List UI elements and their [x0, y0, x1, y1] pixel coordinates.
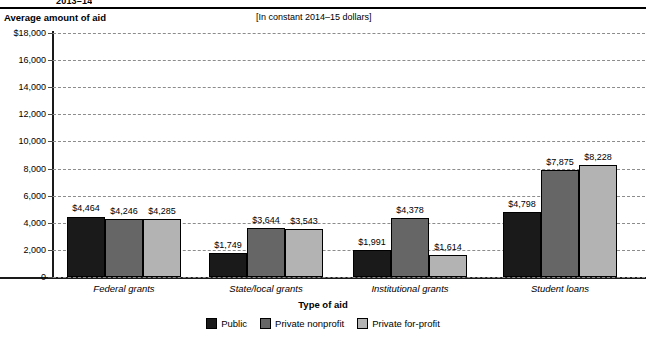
- legend-label: Public: [221, 318, 247, 329]
- tick-mark: [48, 250, 53, 251]
- gridline: [53, 87, 645, 88]
- gridline: [53, 60, 645, 61]
- legend-item[interactable]: Private for-profit: [357, 318, 440, 329]
- bar: [67, 217, 105, 278]
- y-axis-tick-label: 12,000: [18, 109, 46, 119]
- bar: [503, 212, 541, 277]
- legend-swatch-icon: [206, 318, 217, 329]
- y-axis-tick-label: 16,000: [18, 55, 46, 65]
- bar: [105, 219, 143, 277]
- x-axis-title: Type of aid: [0, 299, 646, 310]
- legend-swatch-icon: [260, 318, 271, 329]
- legend-label: Private nonprofit: [275, 318, 344, 329]
- chart-legend: PublicPrivate nonprofitPrivate for-profi…: [0, 318, 646, 329]
- tick-mark: [48, 169, 53, 170]
- x-axis-group-label: Student loans: [531, 283, 589, 294]
- bar-value-label: $4,246: [110, 206, 138, 216]
- bar: [143, 219, 181, 277]
- units-note: [In constant 2014–15 dollars]: [256, 12, 372, 22]
- bar: [247, 228, 285, 277]
- y-axis-tick-label: $18,000: [13, 28, 46, 38]
- bar: [391, 218, 429, 277]
- bar-value-label: $8,228: [584, 152, 612, 162]
- bar-value-label: $3,644: [252, 215, 280, 225]
- legend-label: Private for-profit: [372, 318, 440, 329]
- bar-value-label: $1,749: [214, 240, 242, 250]
- y-axis-tick-label: 10,000: [18, 136, 46, 146]
- bar-value-label: $4,378: [396, 205, 424, 215]
- tick-mark: [48, 141, 53, 142]
- bar: [579, 165, 617, 277]
- bar: [285, 229, 323, 277]
- tick-mark: [48, 277, 53, 278]
- y-axis-tick-label: 8,000: [23, 164, 46, 174]
- y-axis-tick-label: 0: [41, 272, 46, 282]
- y-axis-tick-label: 14,000: [18, 82, 46, 92]
- bar: [353, 250, 391, 277]
- bar: [541, 170, 579, 277]
- tick-mark: [48, 60, 53, 61]
- clipped-report-title: 2013–14: [56, 0, 92, 4]
- tick-mark: [48, 87, 53, 88]
- header-rule: [0, 7, 646, 9]
- gridline: [53, 277, 645, 278]
- legend-item[interactable]: Public: [206, 318, 247, 329]
- y-axis-tick-label: 6,000: [23, 191, 46, 201]
- tick-mark: [48, 196, 53, 197]
- gridline: [53, 114, 645, 115]
- x-axis-group-label: State/local grants: [229, 283, 302, 294]
- x-axis-group-label: Institutional grants: [371, 283, 448, 294]
- x-axis-group-label: Federal grants: [93, 283, 154, 294]
- tick-mark: [48, 114, 53, 115]
- bar-value-label: $1,614: [434, 242, 462, 252]
- bar-value-label: $4,285: [148, 206, 176, 216]
- y-axis-tick-label: 2,000: [23, 245, 46, 255]
- bar: [209, 253, 247, 277]
- bar-value-label: $1,991: [358, 237, 386, 247]
- bar-value-label: $4,464: [72, 203, 100, 213]
- legend-item[interactable]: Private nonprofit: [260, 318, 344, 329]
- tick-mark: [48, 223, 53, 224]
- plot-area: 02,0004,0006,0008,00010,00012,00014,0001…: [53, 33, 645, 277]
- bar-value-label: $4,798: [508, 199, 536, 209]
- bar-value-label: $3,543: [290, 216, 318, 226]
- y-axis-title: Average amount of aid: [4, 12, 106, 23]
- gridline: [53, 141, 645, 142]
- gridline: [53, 33, 645, 34]
- bar-value-label: $7,875: [546, 157, 574, 167]
- tick-mark: [48, 33, 53, 34]
- bar: [429, 255, 467, 277]
- legend-swatch-icon: [357, 318, 368, 329]
- y-axis-tick-label: 4,000: [23, 218, 46, 228]
